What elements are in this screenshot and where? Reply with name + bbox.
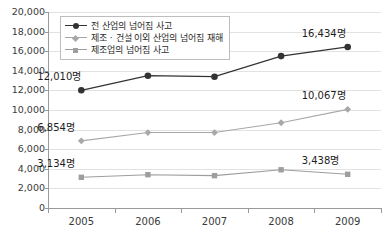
gridline xyxy=(49,169,381,170)
y-axis-tick xyxy=(45,90,49,91)
y-axis-tick-label: 10,000 xyxy=(0,105,45,115)
y-axis-tick-label: 18,000 xyxy=(0,27,45,37)
y-axis-tick xyxy=(45,110,49,111)
gridline xyxy=(49,130,381,131)
point-value-label: 10,067명 xyxy=(302,91,346,101)
point-value-label: 12,010명 xyxy=(37,72,81,82)
legend-item-label: 전 산업의 넘어짐 사고 xyxy=(91,20,172,32)
y-axis-tick-label: 16,000 xyxy=(0,46,45,56)
legend-circle-marker-icon xyxy=(65,20,87,32)
y-axis-tick xyxy=(45,51,49,52)
legend-item-2[interactable]: 제조 · 건설 이외 산업의 넘어짐 재해 xyxy=(65,32,223,44)
x-axis-tick xyxy=(181,208,182,213)
point-value-label: 3,438명 xyxy=(302,156,340,166)
y-axis-tick-label: 0 xyxy=(0,203,45,213)
gridline xyxy=(49,12,381,13)
line-chart: 02,0004,0006,0008,00010,00012,00014,0001… xyxy=(0,0,389,242)
y-axis-tick xyxy=(45,188,49,189)
x-axis-tick-label: 2009 xyxy=(318,216,378,227)
x-axis-tick xyxy=(48,208,49,213)
legend-item-label: 제조 · 건설 이외 산업의 넘어짐 재해 xyxy=(91,32,223,44)
y-axis-tick xyxy=(45,149,49,150)
gridline xyxy=(49,188,381,189)
x-axis-tick-label: 2008 xyxy=(251,216,311,227)
legend-item-label: 제조업의 넘어짐 사고 xyxy=(91,44,169,56)
x-axis-tick xyxy=(248,208,249,213)
legend-diamond-marker-icon xyxy=(65,32,87,44)
point-value-label: 3,134명 xyxy=(37,159,75,169)
gridline xyxy=(49,110,381,111)
x-axis-tick-label: 2007 xyxy=(185,216,245,227)
y-axis-tick-label: 2,000 xyxy=(0,184,45,194)
y-axis-tick xyxy=(45,12,49,13)
y-axis-tick-label: 20,000 xyxy=(0,7,45,17)
x-axis-line xyxy=(48,208,381,209)
x-axis-tick xyxy=(381,208,382,213)
legend-item-1[interactable]: 전 산업의 넘어짐 사고 xyxy=(65,20,223,32)
legend-square-marker-icon xyxy=(65,44,87,56)
point-value-label: 16,434명 xyxy=(302,29,346,39)
y-axis-tick-label: 12,000 xyxy=(0,86,45,96)
x-axis-tick-label: 2006 xyxy=(118,216,178,227)
y-axis-tick xyxy=(45,32,49,33)
legend-item-3[interactable]: 제조업의 넘어짐 사고 xyxy=(65,44,223,56)
x-axis-tick xyxy=(314,208,315,213)
gridline xyxy=(49,71,381,72)
gridline xyxy=(49,149,381,150)
legend: 전 산업의 넘어짐 사고제조 · 건설 이외 산업의 넘어짐 재해제조업의 넘어… xyxy=(60,16,230,60)
x-axis-tick xyxy=(115,208,116,213)
x-axis-tick-label: 2005 xyxy=(51,216,111,227)
y-axis-tick-label: 6,000 xyxy=(0,144,45,154)
point-value-label: 6,854명 xyxy=(37,123,75,133)
